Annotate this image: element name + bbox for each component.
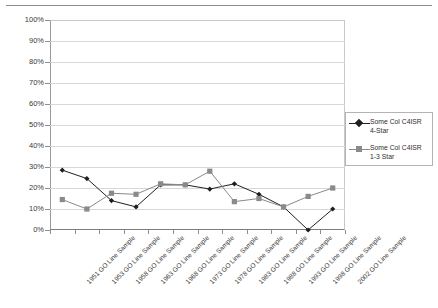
legend-swatch-1-3-star xyxy=(349,145,370,154)
x-category-label: 2002 GO Line Sample xyxy=(356,234,407,285)
chart-page: 100%90%80%70%60%50%40%30%20%10%0% 1951 G… xyxy=(0,0,438,308)
x-category-label: 1963 GO Line Sample xyxy=(159,234,210,285)
legend-item-4-star[interactable]: Some Col C4ISR 4-Star xyxy=(349,118,429,135)
x-category-label: 1988 GO Line Sample xyxy=(282,234,333,285)
chart-legend: Some Col C4ISR 4-Star Some Col C4ISR 1-3… xyxy=(345,112,433,166)
legend-swatch-4-star xyxy=(349,119,370,128)
x-category-label: 1998 GO Line Sample xyxy=(331,234,382,285)
legend-item-1-3-star[interactable]: Some Col C4ISR 1-3 Star xyxy=(349,144,429,161)
legend-label-1-3-star: Some Col C4ISR 1-3 Star xyxy=(370,144,422,161)
legend-label-4-star: Some Col C4ISR 4-Star xyxy=(370,118,422,135)
